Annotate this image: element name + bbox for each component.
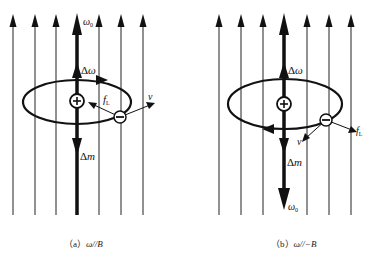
- velocity-label-b: v: [297, 136, 302, 147]
- figure-canvas: ω0 Δω fL v Δm （a）ω//B: [0, 0, 367, 265]
- delta-omega-label-a: Δω: [81, 64, 96, 76]
- orbit-direction-arrow-icon: [262, 124, 274, 134]
- caption-b: （b）ω//−B: [271, 239, 317, 249]
- delta-m-arrowhead-icon: [279, 138, 289, 154]
- delta-m-label-b: Δm: [287, 156, 302, 168]
- angular-velocity-axis-a: [72, 13, 82, 215]
- caption-a: （a）ω//B: [64, 239, 103, 249]
- omega0-label-b: ω0: [288, 201, 298, 213]
- velocity-label-a: v: [148, 91, 153, 102]
- electron-b: [320, 114, 332, 126]
- nucleus-b: [277, 97, 291, 111]
- omega0-label-a: ω0: [83, 16, 93, 28]
- electron-a: [114, 111, 126, 123]
- lorentz-force-label-b: fL: [356, 125, 363, 137]
- nucleus-a: [70, 94, 84, 108]
- panel-b: Δω fL v Δm ω0 （b）ω//−B: [216, 13, 363, 249]
- omega0-arrowhead-icon: [72, 13, 82, 35]
- panel-a: ω0 Δω fL v Δm （a）ω//B: [10, 13, 156, 249]
- field-center-arrowhead-icon: [279, 13, 289, 35]
- delta-omega-label-b: Δω: [288, 64, 303, 76]
- lorentz-force-label-a: fL: [103, 93, 110, 106]
- delta-m-label-a: Δm: [80, 150, 95, 162]
